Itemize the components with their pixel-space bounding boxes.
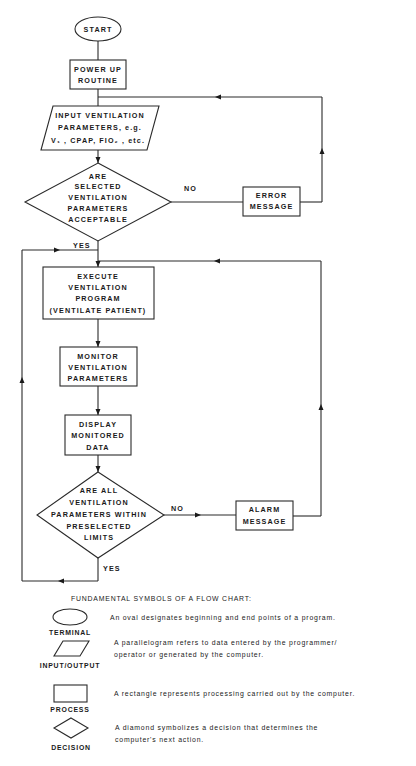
- svg-text:POWER UP: POWER UP: [74, 65, 122, 74]
- svg-text:PARAMETERS: PARAMETERS: [68, 374, 129, 383]
- power-up-process: POWER UP ROUTINE: [70, 60, 126, 89]
- decision1-yes-label: YES: [73, 241, 91, 250]
- parallelogram-symbol-icon: [54, 641, 89, 656]
- svg-text:A diamond symbolizes a decisio: A diamond symbolizes a decision that det…: [115, 724, 318, 732]
- parameters-acceptable-decision: ARE SELECTED VENTILATION PARAMETERS ACCE…: [25, 163, 171, 241]
- svg-text:A rectangle represents process: A rectangle represents processing carrie…: [114, 690, 355, 698]
- legend-title: FUNDAMENTAL SYMBOLS OF A FLOW CHART:: [71, 595, 252, 602]
- svg-text:DATA: DATA: [86, 443, 109, 452]
- svg-text:VENTILATION: VENTILATION: [68, 363, 127, 372]
- svg-text:PROCESS: PROCESS: [50, 706, 89, 713]
- svg-text:ERROR: ERROR: [256, 191, 287, 200]
- svg-text:PARAMETERS, e.g.: PARAMETERS, e.g.: [58, 123, 142, 132]
- svg-text:LIMITS: LIMITS: [84, 533, 114, 542]
- svg-text:MESSAGE: MESSAGE: [243, 517, 287, 526]
- monitor-parameters-process: MONITOR VENTILATION PARAMETERS: [60, 347, 137, 386]
- svg-text:ROUTINE: ROUTINE: [78, 76, 118, 85]
- svg-text:TERMINAL: TERMINAL: [49, 629, 91, 636]
- svg-text:INPUT/OUTPUT: INPUT/OUTPUT: [40, 662, 101, 669]
- svg-text:V₁ , CPAP, FIO₂ , etc.: V₁ , CPAP, FIO₂ , etc.: [51, 136, 145, 145]
- svg-text:DISPLAY: DISPLAY: [79, 420, 117, 429]
- svg-text:MONITOR: MONITOR: [77, 352, 119, 361]
- svg-text:computer's next action.: computer's next action.: [115, 736, 204, 744]
- alarm-message-process: ALARM MESSAGE: [236, 501, 293, 530]
- flowchart-diagram: START POWER UP ROUTINE INPUT VENTILATION…: [0, 0, 416, 766]
- legend-item-terminal: TERMINAL An oval designates beginning an…: [49, 609, 336, 636]
- svg-text:ALARM: ALARM: [249, 505, 280, 514]
- decision2-no-label: NO: [171, 504, 184, 513]
- svg-text:DECISION: DECISION: [51, 744, 91, 751]
- svg-text:PARAMETERS WITHIN: PARAMETERS WITHIN: [51, 510, 147, 519]
- legend-item-decision: DECISION A diamond symbolizes a decision…: [51, 718, 318, 751]
- svg-text:ACCEPTABLE: ACCEPTABLE: [68, 215, 128, 224]
- svg-text:EXECUTE: EXECUTE: [77, 272, 119, 281]
- svg-text:VENTILATION: VENTILATION: [69, 498, 128, 507]
- svg-text:An oval designates beginning a: An oval designates beginning and end poi…: [110, 614, 336, 622]
- parameters-within-limits-decision: ARE ALL VENTILATION PARAMETERS WITHIN PR…: [37, 472, 164, 558]
- svg-text:SELECTED: SELECTED: [74, 182, 121, 191]
- decision2-yes-label: YES: [103, 564, 121, 573]
- start-terminal: START: [75, 17, 121, 41]
- svg-text:A parallelogram refers to data: A parallelogram refers to data entered b…: [114, 639, 337, 647]
- error-message-process: ERROR MESSAGE: [243, 187, 300, 216]
- svg-text:VENTILATION: VENTILATION: [68, 283, 127, 292]
- svg-text:MONITORED: MONITORED: [71, 431, 125, 440]
- svg-text:START: START: [84, 25, 113, 34]
- legend: FUNDAMENTAL SYMBOLS OF A FLOW CHART: TER…: [40, 595, 355, 751]
- svg-text:PROGRAM: PROGRAM: [75, 294, 120, 303]
- svg-text:PRESELECTED: PRESELECTED: [66, 522, 131, 531]
- svg-text:VENTILATION: VENTILATION: [68, 193, 127, 202]
- svg-text:PARAMETERS: PARAMETERS: [68, 204, 129, 213]
- decision1-no-label: NO: [184, 184, 197, 193]
- oval-symbol-icon: [53, 609, 87, 625]
- legend-item-process: PROCESS A rectangle represents processin…: [50, 685, 355, 713]
- diamond-symbol-icon: [54, 718, 88, 738]
- svg-text:ARE ALL: ARE ALL: [80, 486, 119, 495]
- svg-text:INPUT VENTILATION: INPUT VENTILATION: [55, 111, 145, 120]
- svg-text:ARE: ARE: [89, 172, 107, 181]
- svg-text:MESSAGE: MESSAGE: [250, 202, 294, 211]
- svg-text:(VENTILATE PATIENT): (VENTILATE PATIENT): [50, 306, 147, 315]
- input-parameters-io: INPUT VENTILATION PARAMETERS, e.g. V₁ , …: [41, 106, 159, 150]
- display-data-process: DISPLAY MONITORED DATA: [65, 415, 131, 455]
- legend-item-input-output: INPUT/OUTPUT A parallelogram refers to d…: [40, 639, 338, 669]
- svg-text:operator or generated by the c: operator or generated by the computer.: [114, 651, 264, 659]
- execute-program-process: EXECUTE VENTILATION PROGRAM (VENTILATE P…: [43, 267, 154, 319]
- rectangle-symbol-icon: [54, 685, 87, 702]
